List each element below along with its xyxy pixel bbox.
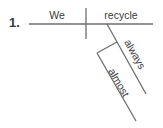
modifier-word-always: always bbox=[122, 37, 148, 71]
sentence-diagram: 1. We recycle always almost bbox=[0, 0, 163, 128]
item-number: 1. bbox=[9, 15, 20, 30]
modifier-word-almost: almost bbox=[106, 66, 132, 99]
modifier-connector bbox=[97, 42, 117, 53]
subject-word: We bbox=[49, 9, 65, 21]
verb-word: recycle bbox=[104, 9, 137, 21]
